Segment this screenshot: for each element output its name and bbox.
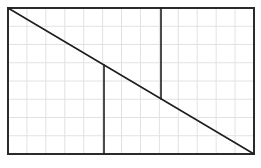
diagram-canvas — [0, 0, 261, 168]
geometric-figure — [0, 0, 261, 168]
